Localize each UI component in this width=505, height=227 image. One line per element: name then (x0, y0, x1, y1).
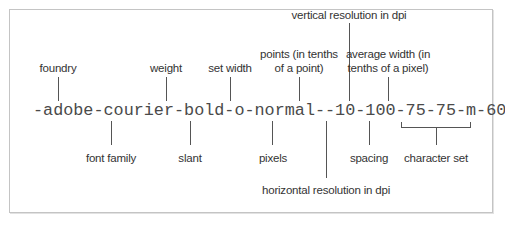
label-set-width: set width (208, 61, 252, 75)
tick-set-width (230, 77, 231, 101)
tick-spacing (369, 121, 370, 145)
label-slant: slant (178, 151, 201, 165)
label-average-width-line1: average width (in (346, 47, 430, 61)
tick-foundry (58, 77, 59, 101)
label-vertical-resolution: vertical resolution in dpi (292, 8, 407, 22)
label-spacing: spacing (350, 151, 388, 165)
label-average-width-line2: tenths of a pixel) (346, 61, 430, 75)
label-average-width: average width (in tenths of a pixel) (346, 47, 430, 75)
xlfd-font-name: -adobe-courier-bold-o-normal--10-100-75-… (33, 102, 505, 120)
tick-slant (190, 121, 191, 145)
label-horizontal-resolution: horizontal resolution in dpi (262, 183, 390, 197)
label-foundry: foundry (40, 61, 77, 75)
tick-weight (166, 77, 167, 101)
tick-pixels (272, 121, 273, 145)
label-points-line1: points (in tenths (260, 47, 338, 61)
label-points-line2: of a point) (260, 61, 338, 75)
tick-points (299, 77, 300, 101)
label-character-set: character set (404, 151, 468, 165)
tick-average-width (388, 77, 389, 101)
label-points: points (in tenths of a point) (260, 47, 338, 75)
tick-character-set (436, 127, 437, 145)
label-pixels: pixels (259, 151, 287, 165)
tick-font-family (111, 121, 112, 145)
tick-horizontal-resolution (326, 121, 327, 178)
label-font-family: font family (86, 151, 136, 165)
label-weight: weight (150, 61, 182, 75)
